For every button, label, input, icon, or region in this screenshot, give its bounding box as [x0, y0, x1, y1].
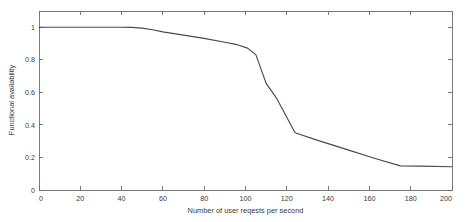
y-tick-label: 0.2 — [25, 153, 35, 162]
x-axis-title: Number of user reqests per second — [188, 206, 304, 215]
x-tick-label: 180 — [405, 194, 417, 203]
y-axis-ticks — [39, 27, 452, 190]
x-tick-label: 80 — [200, 194, 208, 203]
y-axis-title: Functional availability — [7, 65, 16, 136]
y-tick-label: 0.8 — [25, 55, 35, 64]
y-tick-label: 1 — [31, 23, 35, 32]
x-tick-label: 200 — [440, 194, 452, 203]
x-tick-label: 20 — [76, 194, 84, 203]
y-tick-label: 0.6 — [25, 88, 35, 97]
x-tick-label: 100 — [240, 194, 252, 203]
availability-curve — [39, 27, 452, 166]
x-tick-label: 60 — [159, 194, 167, 203]
x-tick-label: 160 — [363, 194, 375, 203]
x-tick-label: 40 — [118, 194, 126, 203]
x-tick-label: 0 — [39, 194, 43, 203]
line-chart-canvas: 020406080100120140160180200 00.20.40.60.… — [0, 0, 474, 222]
x-tick-label: 120 — [281, 194, 293, 203]
chart-figure: 020406080100120140160180200 00.20.40.60.… — [0, 0, 474, 222]
x-tick-label: 140 — [322, 194, 334, 203]
x-axis-tick-labels: 020406080100120140160180200 — [39, 194, 452, 203]
y-tick-label: 0 — [31, 186, 35, 195]
y-axis-tick-labels: 00.20.40.60.81 — [25, 23, 35, 195]
y-tick-label: 0.4 — [25, 121, 35, 130]
